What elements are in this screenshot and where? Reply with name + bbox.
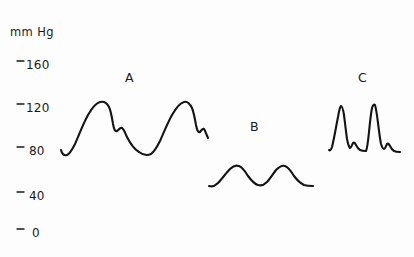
figure-background xyxy=(0,0,414,257)
axis-tick-label: 0 xyxy=(32,226,40,240)
axis-tick-label: 40 xyxy=(29,189,45,203)
waveform-letter-c: C xyxy=(358,70,367,85)
axis-tick-label: 80 xyxy=(29,144,45,158)
waveform-canvas: mm Hg 160 120 80 40 0 A xyxy=(0,0,414,257)
axis-tick-label: 160 xyxy=(26,58,50,72)
axis-unit-label: mm Hg xyxy=(10,25,54,39)
waveform-letter-a: A xyxy=(125,70,134,85)
waveform-letter-b: B xyxy=(250,119,259,134)
axis-tick-label: 120 xyxy=(26,101,50,115)
arterial-waveform-figure: mm Hg 160 120 80 40 0 A xyxy=(0,0,414,257)
